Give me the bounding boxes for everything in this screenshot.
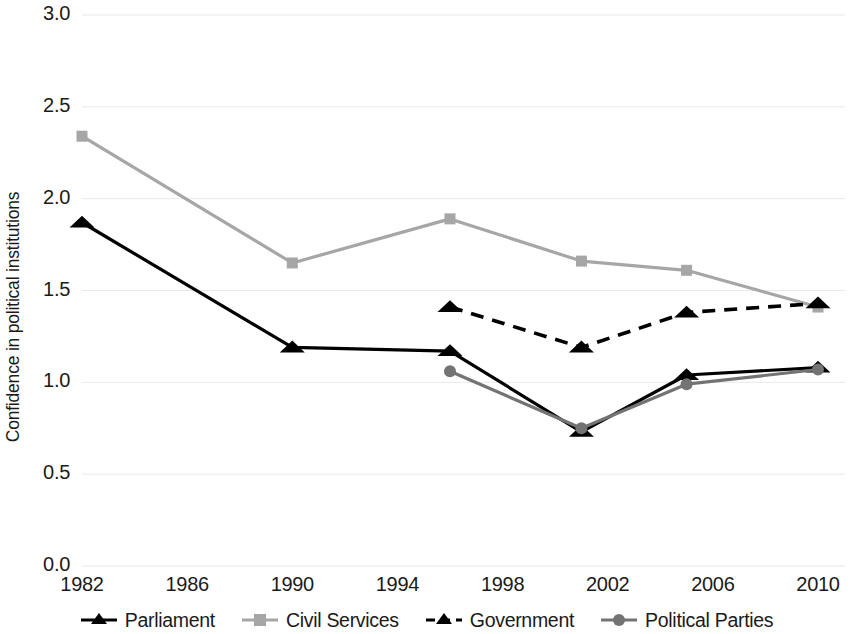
series-line-political-parties (450, 370, 818, 429)
marker-circle (812, 363, 824, 375)
legend-label: Civil Services (286, 609, 399, 632)
marker-square (445, 213, 456, 224)
x-tick-label: 1998 (458, 573, 548, 596)
data-point-government-2005 (674, 306, 699, 318)
data-point-political-parties-2001 (575, 422, 587, 434)
legend-marker-circle-icon (600, 611, 638, 629)
series-line-government (450, 303, 818, 347)
plot-area (0, 0, 853, 634)
x-tick-label: 2002 (563, 573, 653, 596)
line-chart: Confidence in political institutions 0.0… (0, 0, 853, 634)
marker-square (287, 257, 298, 268)
legend-marker-triangle-icon (80, 611, 118, 629)
data-point-civil-services-1982 (77, 131, 88, 142)
x-tick-label: 1994 (352, 573, 442, 596)
data-point-political-parties-2010 (812, 363, 824, 375)
y-tick-label: 1.0 (18, 369, 70, 392)
legend-item-civil-services[interactable]: Civil Services (241, 609, 399, 632)
y-tick-label: 3.0 (18, 2, 70, 25)
x-tick-label: 1982 (37, 573, 127, 596)
x-tick-label: 2010 (773, 573, 853, 596)
series-line-parliament (82, 223, 818, 432)
marker-triangle (806, 297, 831, 309)
data-point-political-parties-2005 (681, 378, 693, 390)
y-tick-label: 2.0 (18, 186, 70, 209)
x-tick-label: 1986 (142, 573, 232, 596)
data-point-government-2010 (806, 297, 831, 309)
data-point-civil-services-2001 (576, 256, 587, 267)
y-tick-label: 0.5 (18, 461, 70, 484)
data-point-parliament-1982 (70, 216, 95, 228)
data-point-civil-services-1996 (445, 213, 456, 224)
legend-marker-square-icon (241, 611, 279, 629)
marker-triangle (674, 306, 699, 318)
marker-triangle (438, 300, 463, 312)
legend-label: Political Parties (645, 609, 773, 632)
marker-square (77, 131, 88, 142)
y-tick-label: 2.5 (18, 94, 70, 117)
marker-circle (681, 378, 693, 390)
x-tick-label: 2006 (668, 573, 758, 596)
data-point-civil-services-2005 (681, 265, 692, 276)
data-point-civil-services-1990 (287, 257, 298, 268)
marker-circle (444, 365, 456, 377)
chart-legend: ParliamentCivil ServicesGovernmentPoliti… (0, 606, 853, 634)
legend-item-government[interactable]: Government (425, 609, 574, 632)
marker-triangle (70, 216, 95, 228)
legend-marker-circle (613, 614, 625, 626)
data-point-political-parties-1996 (444, 365, 456, 377)
legend-item-parliament[interactable]: Parliament (80, 609, 215, 632)
data-point-government-2001 (569, 341, 594, 353)
legend-marker-square (254, 614, 266, 626)
x-tick-label: 1990 (247, 573, 337, 596)
legend-marker-triangle-icon (425, 611, 463, 629)
marker-square (681, 265, 692, 276)
legend-label: Government (470, 609, 574, 632)
legend-label: Parliament (125, 609, 215, 632)
data-point-government-1996 (438, 300, 463, 312)
marker-circle (575, 422, 587, 434)
y-tick-label: 1.5 (18, 278, 70, 301)
legend-item-political-parties[interactable]: Political Parties (600, 609, 773, 632)
marker-triangle (569, 341, 594, 353)
marker-square (576, 256, 587, 267)
